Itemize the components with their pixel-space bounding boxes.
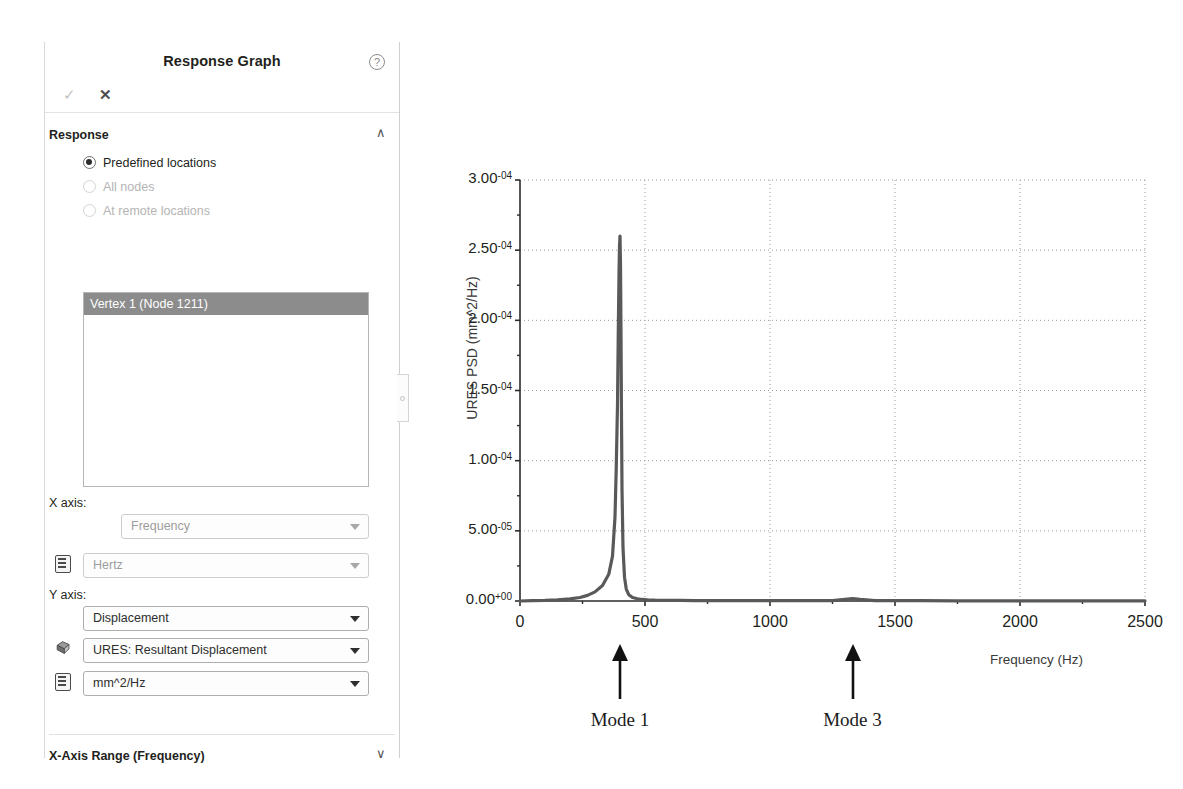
chart-annotation-label: Mode 1 [576, 709, 664, 731]
chart-x-axis-title: Frequency (Hz) [990, 652, 1083, 667]
unit-icon [55, 555, 71, 573]
radio-all-nodes[interactable]: All nodes [45, 175, 399, 199]
x-axis-label: X axis: [49, 496, 87, 510]
help-circle-icon[interactable]: ? [369, 54, 385, 70]
y-axis-quantity-value: Displacement [93, 607, 169, 630]
y-axis-unit-value: mm^2/Hz [93, 672, 145, 695]
radio-indicator[interactable] [83, 180, 96, 193]
x-axis-quantity-select[interactable]: Frequency [121, 514, 369, 539]
section-label-x-axis-range: X-Axis Range (Frequency) [49, 749, 205, 763]
section-label-response: Response [49, 128, 109, 142]
y-axis-quantity-select[interactable]: Displacement [83, 606, 369, 631]
chevron-down-icon[interactable]: ∨ [376, 747, 389, 760]
property-manager-panel: Response Graph ? ✓ ✕ Response ∧ Predefin… [44, 42, 400, 758]
chart-plot-area [430, 160, 1170, 630]
chevron-down-icon[interactable] [350, 616, 360, 622]
divider [49, 734, 395, 735]
up-arrow-icon [842, 643, 864, 699]
y-axis-unit-select[interactable]: mm^2/Hz [83, 671, 369, 696]
chevron-down-icon[interactable] [350, 681, 360, 687]
y-axis-label: Y axis: [49, 588, 86, 602]
chevron-up-icon[interactable]: ∧ [376, 126, 389, 139]
x-axis-unit-value: Hertz [93, 554, 123, 577]
chart-annotation-label: Mode 3 [809, 709, 897, 731]
radio-label: Predefined locations [103, 151, 216, 175]
radio-predefined-locations[interactable]: Predefined locations [45, 151, 399, 175]
x-axis-quantity-value: Frequency [131, 515, 190, 538]
section-header-x-axis-range[interactable]: X-Axis Range (Frequency) ∨ [45, 742, 399, 772]
section-header-response[interactable]: Response ∧ [45, 121, 399, 151]
up-arrow-icon [609, 643, 631, 699]
panel-toolbar: ✓ ✕ [45, 80, 399, 113]
y-axis-component-select[interactable]: URES: Resultant Displacement [83, 638, 369, 663]
radio-indicator[interactable] [83, 204, 96, 217]
radio-label: At remote locations [103, 199, 210, 223]
panel-title-bar: Response Graph ? [45, 42, 399, 80]
radio-label: All nodes [103, 175, 154, 199]
cancel-button[interactable]: ✕ [93, 83, 117, 107]
node-selection-list[interactable]: Vertex 1 (Node 1211) [83, 292, 369, 487]
chevron-down-icon[interactable] [350, 563, 360, 569]
unit-icon [55, 673, 71, 691]
plot-component-icon [54, 639, 73, 657]
list-item[interactable]: Vertex 1 (Node 1211) [84, 293, 368, 315]
x-axis-unit-select[interactable]: Hertz [83, 553, 369, 578]
radio-at-remote-locations[interactable]: At remote locations [45, 199, 399, 223]
chevron-down-icon[interactable] [350, 524, 360, 530]
panel-collapse-handle[interactable] [397, 374, 409, 422]
handle-dot-icon [400, 396, 405, 401]
page-title: Response Graph [45, 53, 399, 69]
response-graph-chart: URES PSD (mm^2/Hz) Frequency (Hz) 0.00+0… [430, 160, 1170, 760]
y-axis-component-value: URES: Resultant Displacement [93, 639, 267, 662]
chevron-down-icon[interactable] [350, 648, 360, 654]
accept-button[interactable]: ✓ [57, 83, 81, 107]
radio-indicator[interactable] [83, 156, 96, 169]
